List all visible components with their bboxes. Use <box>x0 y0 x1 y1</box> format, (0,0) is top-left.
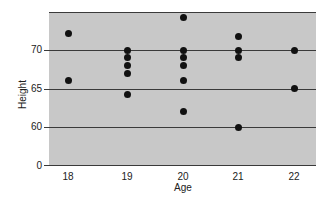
y-tick-70 <box>44 50 49 51</box>
data-point <box>124 54 131 61</box>
y-tick-label-60: 60 <box>22 121 42 132</box>
x-tick-label-19: 19 <box>117 171 137 182</box>
x-axis-title: Age <box>171 182 195 193</box>
y-tick-65 <box>44 89 49 90</box>
data-point <box>180 47 187 54</box>
data-point <box>291 47 298 54</box>
gridline-top <box>49 12 316 13</box>
gridline-65 <box>49 89 316 90</box>
data-point <box>180 54 187 61</box>
y-tick-0 <box>44 165 49 166</box>
data-point <box>180 62 187 69</box>
data-point <box>180 14 187 21</box>
gridline-60 <box>49 127 316 128</box>
y-tick-label-70: 70 <box>22 44 42 55</box>
x-tick-label-21: 21 <box>228 171 248 182</box>
x-tick-label-20: 20 <box>173 171 193 182</box>
data-point <box>235 47 242 54</box>
data-point <box>65 77 72 84</box>
y-tick-label-0: 0 <box>22 160 42 171</box>
data-point <box>124 91 131 98</box>
x-tick-label-22: 22 <box>284 171 304 182</box>
plot-area <box>49 12 316 166</box>
x-tick-label-18: 18 <box>58 171 78 182</box>
data-point <box>291 85 298 92</box>
data-point <box>124 47 131 54</box>
gridline-0 <box>49 165 316 166</box>
data-point <box>235 33 242 40</box>
data-point <box>235 54 242 61</box>
data-point <box>65 30 72 37</box>
y-axis-title: Height <box>17 77 28 113</box>
data-point <box>124 62 131 69</box>
data-point <box>124 70 131 77</box>
y-tick-60 <box>44 127 49 128</box>
data-point <box>180 108 187 115</box>
data-point <box>180 77 187 84</box>
data-point <box>235 124 242 131</box>
